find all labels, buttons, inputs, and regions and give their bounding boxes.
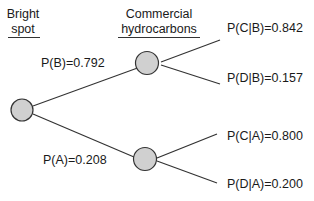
header-bright-spot: Bright spot: [4, 7, 42, 37]
header-commercial-hydrocarbons: Commercial hydrocarbons: [118, 7, 200, 37]
label-P-C-given-A: P(C|A)=0.800: [227, 130, 303, 143]
header-underline: [118, 37, 200, 38]
label-P-C-given-B: P(C|B)=0.842: [227, 22, 303, 35]
header-line: spot: [4, 22, 42, 37]
header-underline: [8, 37, 40, 38]
label-P-D-given-A: P(D|A)=0.200: [227, 178, 303, 191]
label-P-D-given-B: P(D|B)=0.157: [227, 72, 303, 85]
header-line: Bright: [4, 7, 42, 22]
label-P-A: P(A)=0.208: [43, 154, 107, 167]
branch-CB: [161, 40, 220, 62]
header-line: hydrocarbons: [118, 22, 200, 37]
node-B: [136, 52, 159, 75]
header-line: Commercial: [118, 7, 200, 22]
branch-B: [33, 66, 143, 106]
branch-A: [33, 114, 134, 157]
node-A: [134, 148, 157, 171]
label-P-B: P(B)=0.792: [41, 57, 105, 70]
branch-CA: [157, 134, 217, 158]
branch-DB: [161, 65, 220, 84]
branch-DA: [157, 161, 217, 183]
root-node: [11, 99, 33, 121]
